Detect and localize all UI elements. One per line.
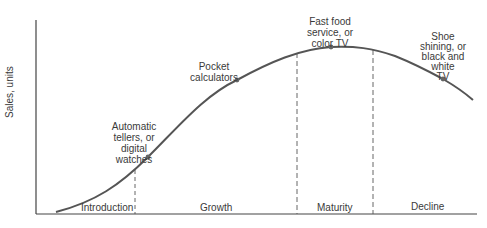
y-axis-label: Sales, units (4, 66, 15, 118)
annotation-line: Automatic (104, 121, 164, 132)
stage-introduction: Introduction (81, 202, 133, 213)
stage-growth: Growth (200, 202, 232, 213)
annotation-line: Pocket (184, 61, 244, 72)
annotation-line: TV (413, 72, 473, 82)
annotation-shoe-shining: Shoe shining, or black and white TV (413, 32, 473, 82)
annotation-automatic-tellers: Automatic tellers, or digital watches (104, 121, 164, 165)
annotation-line: calculators (184, 72, 244, 83)
annotation-line: Fast food (298, 16, 362, 27)
annotation-line: tellers, or (104, 132, 164, 143)
annotation-line: digital (104, 143, 164, 154)
annotation-fast-food: Fast food service, or color TV (298, 16, 362, 49)
annotation-line: service, or (298, 27, 362, 38)
stage-decline: Decline (411, 201, 444, 212)
annotation-line: color TV (298, 38, 362, 49)
stage-maturity: Maturity (317, 202, 353, 213)
annotation-pocket-calculators: Pocket calculators (184, 61, 244, 83)
annotation-line: watches (104, 154, 164, 165)
